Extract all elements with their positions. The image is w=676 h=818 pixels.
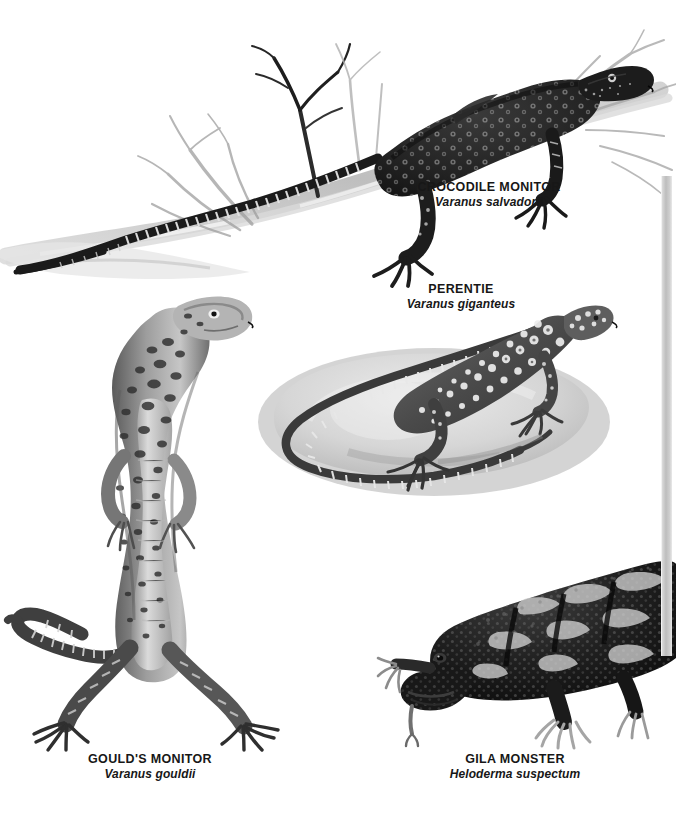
illustration-plate: CROCODILE MONITOR Varanus salvadorii PER…	[0, 0, 676, 818]
common-name-perentie: PERENTIE	[340, 282, 582, 297]
tongue	[406, 706, 418, 746]
figure-gila-monster	[378, 540, 676, 750]
lizard-body	[378, 561, 676, 748]
hind-claws	[536, 720, 590, 748]
common-name-goulds-monitor: GOULD'S MONITOR	[29, 752, 271, 767]
caption-perentie: PERENTIE Varanus giganteus	[340, 282, 582, 311]
right-hind-foot	[222, 724, 278, 750]
branch-element	[0, 30, 676, 279]
figure-goulds-monitor	[8, 280, 308, 750]
front-claws	[378, 658, 400, 692]
scientific-name-crocodile-monitor: Varanus salvadorii	[368, 195, 610, 209]
common-name-crocodile-monitor: CROCODILE MONITOR	[368, 180, 610, 195]
common-name-gila-monster: GILA MONSTER	[394, 752, 636, 767]
scientific-name-perentie: Varanus giganteus	[340, 297, 582, 311]
lizard-tail	[8, 614, 124, 659]
scientific-name-gila-monster: Heloderma suspectum	[394, 767, 636, 781]
lizard-body	[374, 66, 654, 286]
page-edge-shadow	[661, 176, 672, 656]
lizard-body	[8, 296, 278, 750]
lizard-tail	[16, 158, 378, 272]
caption-gila-monster: GILA MONSTER Heloderma suspectum	[394, 752, 636, 781]
left-hind-foot	[34, 723, 88, 750]
scientific-name-goulds-monitor: Varanus gouldii	[29, 767, 271, 781]
figure-crocodile-monitor	[0, 18, 676, 288]
caption-goulds-monitor: GOULD'S MONITOR Varanus gouldii	[29, 752, 271, 781]
caption-crocodile-monitor: CROCODILE MONITOR Varanus salvadorii	[368, 180, 610, 209]
